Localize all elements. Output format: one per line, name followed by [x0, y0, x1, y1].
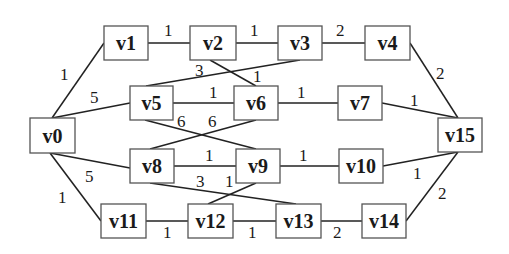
edge-weight-v10-v15: 1 [413, 164, 422, 183]
node-label: v3 [290, 32, 310, 54]
graph-svg: 155111213166112131111122 v0v1v2v3v4v5v6v… [0, 0, 509, 254]
edge-weight-v2-v6: 1 [253, 67, 262, 86]
edge-weight-v0-v1: 1 [60, 65, 69, 84]
node-label: v13 [284, 210, 314, 232]
graph-diagram: 155111213166112131111122 v0v1v2v3v4v5v6v… [0, 0, 509, 254]
node-v14: v14 [362, 204, 406, 238]
edge-weight-v6-v7: 1 [297, 83, 306, 102]
edge-weight-v2-v3: 1 [250, 21, 259, 40]
edge-weight-v8-v9: 1 [205, 146, 214, 165]
edge-weight-v1-v2: 1 [164, 21, 173, 40]
edge-v0-v8 [50, 153, 130, 168]
edge-weight-v3-v5: 3 [195, 61, 204, 80]
node-v15: v15 [438, 118, 482, 152]
edge-weight-v13-v14: 2 [333, 223, 342, 242]
edge-v14-v15 [406, 152, 458, 221]
node-label: v14 [369, 210, 399, 232]
node-v7: v7 [338, 86, 382, 120]
edge-weight-v8-v13: 3 [196, 172, 205, 191]
node-label: v7 [350, 92, 370, 114]
edge-v8-v13 [150, 183, 296, 204]
edge-v3-v5 [146, 60, 300, 86]
node-label: v1 [116, 32, 136, 54]
node-label: v4 [378, 32, 398, 54]
edge-weight-v0-v8: 5 [85, 167, 94, 186]
node-v11: v11 [101, 204, 146, 238]
node-v0: v0 [30, 118, 75, 153]
node-label: v15 [445, 124, 475, 146]
node-v8: v8 [130, 149, 174, 183]
node-label: v5 [142, 92, 162, 114]
node-v9: v9 [236, 149, 280, 183]
edge-weight-v9-v10: 1 [299, 146, 308, 165]
node-label: v10 [346, 155, 376, 177]
node-v3: v3 [278, 26, 322, 60]
node-label: v12 [196, 210, 226, 232]
edge-weight-v7-v15: 1 [410, 91, 419, 110]
edge-weight-v5-v6: 1 [209, 83, 218, 102]
node-v12: v12 [188, 204, 233, 238]
edge-weight-v12-v13: 1 [248, 223, 257, 242]
node-v4: v4 [365, 26, 410, 60]
node-v2: v2 [190, 26, 236, 60]
edge-weight-v14-v15: 2 [438, 184, 447, 203]
node-v5: v5 [130, 86, 173, 120]
edge-v0-v11 [50, 153, 101, 221]
edge-weight-v6-v8: 6 [208, 112, 217, 131]
nodes-layer: v0v1v2v3v4v5v6v7v8v9v10v11v12v13v14v15 [30, 26, 482, 238]
node-v6: v6 [234, 86, 278, 120]
node-label: v6 [246, 92, 266, 114]
edge-weight-v5-v9: 6 [177, 112, 186, 131]
edge-weight-v9-v12: 1 [225, 172, 234, 191]
node-v1: v1 [104, 26, 148, 60]
edge-weight-v11-v12: 1 [163, 223, 172, 242]
edge-weight-v3-v4: 2 [336, 21, 345, 40]
node-label: v0 [43, 125, 63, 147]
node-label: v9 [248, 155, 268, 177]
node-v10: v10 [339, 149, 383, 183]
node-label: v2 [203, 32, 223, 54]
node-label: v8 [142, 155, 162, 177]
node-v13: v13 [276, 204, 321, 238]
edge-v7-v15 [382, 103, 458, 118]
edge-weight-v0-v11: 1 [58, 188, 67, 207]
edge-weight-v0-v5: 5 [90, 88, 99, 107]
edge-weight-v4-v15: 2 [436, 64, 445, 83]
node-label: v11 [109, 210, 138, 232]
